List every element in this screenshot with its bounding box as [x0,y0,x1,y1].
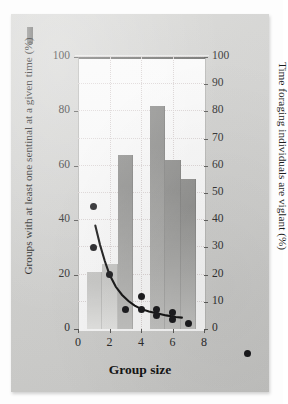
x-axis-tick-mark [78,329,79,333]
y2-axis-tick-mark [204,111,208,112]
y2-axis-tick-label: 40 [212,212,242,224]
y2-axis-tick-label: 70 [212,131,242,143]
x-axis-tick-label: 8 [194,335,214,350]
y-axis-title: Groups with at least one sentinal at a g… [22,31,34,281]
y2-axis-tick-label: 10 [212,294,242,306]
y2-axis-tick-mark [204,193,208,194]
y2-axis-tick-mark [204,275,208,276]
y2-axis-tick-label: 90 [212,76,242,88]
y2-axis-tick-label: 100 [212,49,242,61]
y2-axis-tick-mark [204,57,208,58]
scatter-legend-dot [244,350,251,357]
y2-axis-tick-label: 30 [212,239,242,251]
y2-axis-tick-mark [204,247,208,248]
y-axis-tick-mark [74,166,78,167]
scatter-point [138,293,145,300]
y-axis-tick-mark [74,57,78,58]
y2-axis-tick-mark [204,220,208,221]
x-axis-tick-label: 6 [163,335,183,350]
y2-axis-tick-mark [204,84,208,85]
y2-axis-tick-label: 0 [212,321,242,333]
scatter-point [185,320,192,327]
y-axis-tick-label: 60 [10,158,70,170]
y2-axis-tick-mark [204,139,208,140]
y2-axis-tick-label: 60 [212,158,242,170]
x-axis-tick-mark [173,329,174,333]
y2-axis-tick-label: 20 [212,267,242,279]
scanned-page: Groups with at least one sentinal at a g… [11,14,269,392]
fitted-curve [78,57,204,329]
x-axis-title: Group size [11,362,269,378]
plot-area: 020406080100 0102030405060708090100 0246… [78,57,204,329]
y2-axis-tick-label: 50 [212,185,242,197]
y-axis-tick-mark [74,111,78,112]
x-axis-tick-label: 0 [68,335,88,350]
y2-axis-title: Time foraging individuals are viglant (%… [277,31,283,281]
y-axis-tick-mark [74,220,78,221]
y-axis-tick-label: 0 [10,321,70,333]
y-axis-tick-label: 20 [10,267,70,279]
figure-container: Groups with at least one sentinal at a g… [0,0,283,404]
scatter-point [169,316,176,323]
x-axis-tick-label: 2 [100,335,120,350]
y2-axis-tick-mark [204,302,208,303]
y-axis-tick-label: 80 [10,103,70,115]
y2-axis-tick-label: 80 [212,103,242,115]
y-axis-tick-label: 100 [10,49,70,61]
y-axis-tick-label: 40 [10,212,70,224]
x-axis-tick-mark [110,329,111,333]
y-axis-tick-mark [74,275,78,276]
x-axis-tick-mark [204,329,205,333]
x-axis-tick-mark [141,329,142,333]
x-axis-tick-label: 4 [131,335,151,350]
y2-axis-tick-mark [204,166,208,167]
